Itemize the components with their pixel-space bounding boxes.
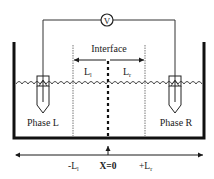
phase-right-label: Phase R [160,117,193,128]
phase-left-label: Phase L [27,117,59,128]
axis-right-label: +Lr [139,161,152,172]
axis-left-label: -Ll [68,161,79,172]
left-length-label: Ll [84,66,92,78]
electrochemical-interface-diagram: V Interface Ll Lr Phase L Phase R [0,0,214,179]
axis-origin-label: X=0 [99,161,116,171]
voltmeter-symbol: V [104,16,111,26]
electrode-right-icon [169,76,181,113]
voltmeter-icon: V [101,14,113,26]
right-length-label: Lr [123,66,131,78]
interface-label: Interface [91,43,127,54]
electrode-left-icon [37,76,49,113]
position-axis [16,146,203,155]
